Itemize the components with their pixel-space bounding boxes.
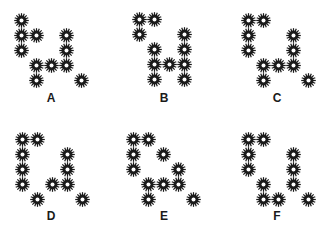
sun-dot-icon xyxy=(256,132,271,147)
sun-dot-icon xyxy=(286,28,301,43)
sun-dot-icon xyxy=(171,177,186,192)
sun-dot-icon xyxy=(30,132,45,147)
sun-dot-icon xyxy=(60,177,75,192)
sun-dot-icon xyxy=(241,147,256,162)
sun-dot-icon xyxy=(15,147,30,162)
sun-dot-icon xyxy=(241,132,256,147)
sun-dot-icon xyxy=(126,132,141,147)
sun-dot-icon xyxy=(141,132,156,147)
sun-dot-icon xyxy=(162,57,177,72)
sun-dot-icon xyxy=(59,28,74,43)
sun-dot-icon xyxy=(286,147,301,162)
sun-dot-icon xyxy=(286,58,301,73)
sun-dot-icon xyxy=(126,147,141,162)
panel-label: A xyxy=(47,92,56,104)
sun-dot-icon xyxy=(256,73,271,88)
sun-dot-icon xyxy=(132,12,147,27)
sun-dot-icon xyxy=(256,13,271,28)
sun-dot-icon xyxy=(171,162,186,177)
panel-label: F xyxy=(273,210,280,222)
sun-dot-icon xyxy=(59,43,74,58)
sun-dot-icon xyxy=(177,42,192,57)
sun-dot-icon xyxy=(14,28,29,43)
sun-dot-icon xyxy=(256,58,271,73)
sun-dot-icon xyxy=(44,58,59,73)
sun-dot-icon xyxy=(147,12,162,27)
sun-dot-icon xyxy=(271,58,286,73)
sun-dot-icon xyxy=(286,43,301,58)
sun-dot-icon xyxy=(15,132,30,147)
sun-dot-icon xyxy=(241,13,256,28)
panel-label: B xyxy=(160,92,169,104)
sun-dot-icon xyxy=(186,192,201,207)
sun-dot-icon xyxy=(147,42,162,57)
sun-dot-icon xyxy=(14,13,29,28)
sun-dot-icon xyxy=(29,58,44,73)
sun-dot-icon xyxy=(301,73,316,88)
sun-dot-icon xyxy=(141,177,156,192)
sun-dot-icon xyxy=(29,73,44,88)
sun-dot-icon xyxy=(177,57,192,72)
panel-label: E xyxy=(160,210,168,222)
sun-dot-icon xyxy=(286,162,301,177)
sun-dot-icon xyxy=(256,192,271,207)
sun-dot-icon xyxy=(286,177,301,192)
sun-dot-icon xyxy=(126,162,141,177)
sun-dot-icon xyxy=(59,58,74,73)
sun-dot-icon xyxy=(156,147,171,162)
sun-dot-icon xyxy=(271,192,286,207)
sun-dot-icon xyxy=(15,162,30,177)
sun-dot-icon xyxy=(29,28,44,43)
sun-dot-icon xyxy=(147,57,162,72)
panel-label: C xyxy=(273,92,282,104)
sun-dot-icon xyxy=(141,192,156,207)
sun-dot-icon xyxy=(14,43,29,58)
sun-dot-icon xyxy=(74,73,89,88)
sun-dot-icon xyxy=(45,177,60,192)
sun-dot-icon xyxy=(30,192,45,207)
sun-dot-icon xyxy=(177,72,192,87)
sun-dot-icon xyxy=(132,27,147,42)
panel-label: D xyxy=(47,210,56,222)
sun-dot-icon xyxy=(60,147,75,162)
sun-dot-icon xyxy=(15,177,30,192)
sun-dot-icon xyxy=(241,162,256,177)
sun-dot-icon xyxy=(241,43,256,58)
sun-dot-icon xyxy=(75,192,90,207)
sun-dot-icon xyxy=(156,177,171,192)
sun-dot-icon xyxy=(301,192,316,207)
sun-dot-icon xyxy=(147,72,162,87)
sun-dot-icon xyxy=(256,177,271,192)
sun-dot-icon xyxy=(241,28,256,43)
sun-dot-icon xyxy=(60,162,75,177)
sun-dot-icon xyxy=(177,27,192,42)
